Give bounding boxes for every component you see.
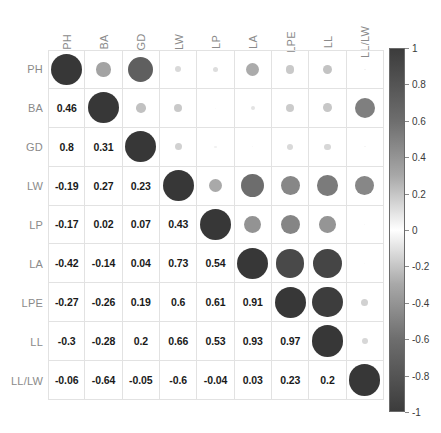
matrix-cell: 0.31 xyxy=(85,128,122,167)
column-header-la: LA xyxy=(235,2,272,48)
correlation-dot xyxy=(200,209,231,240)
correlation-value: 0.23 xyxy=(131,180,151,192)
correlation-dot xyxy=(364,69,366,71)
row-header-column: PHBAGDLWLPLALPELLLL/LW xyxy=(0,50,48,400)
matrix-cell: -0.19 xyxy=(48,167,85,206)
matrix-cell xyxy=(235,89,272,128)
correlation-dot xyxy=(96,62,110,76)
matrix-cell: 0.66 xyxy=(160,322,197,361)
matrix-cell xyxy=(235,50,272,89)
column-header-ph: PH xyxy=(48,2,85,48)
colorbar-gradient xyxy=(389,48,405,412)
column-header-ll-lw: LL/LW xyxy=(347,2,384,48)
matrix-cell xyxy=(347,50,384,89)
matrix-cell xyxy=(309,206,346,245)
correlation-value: 0.53 xyxy=(205,335,225,347)
correlation-value: 0.23 xyxy=(280,374,300,386)
correlation-dot xyxy=(313,249,342,278)
matrix-cell: 0.03 xyxy=(235,361,272,400)
correlation-dot xyxy=(275,287,306,318)
correlation-dot xyxy=(209,179,222,192)
colorbar-tick-label: 0.2 xyxy=(412,188,426,199)
column-header-label: LL xyxy=(322,36,334,49)
matrix-cell xyxy=(272,128,309,167)
matrix-cell xyxy=(160,167,197,206)
correlation-value: -0.28 xyxy=(92,335,115,347)
correlation-dot xyxy=(361,299,368,306)
row-header-ph: PH xyxy=(0,50,43,89)
colorbar-tick-mark xyxy=(405,339,409,340)
colorbar-tick-mark xyxy=(405,266,409,267)
matrix-cell xyxy=(197,89,234,128)
matrix-cell xyxy=(123,89,160,128)
correlation-dot xyxy=(174,104,182,112)
correlation-dot xyxy=(286,65,294,73)
correlation-dot xyxy=(51,54,82,85)
colorbar-tick-label: -0.8 xyxy=(412,370,429,381)
correlation-value: 0.19 xyxy=(131,296,151,308)
matrix-cell xyxy=(272,50,309,89)
correlation-dot xyxy=(349,364,380,395)
colorbar-tick-mark xyxy=(405,230,409,231)
correlation-dot xyxy=(319,216,336,233)
matrix-cell: -0.64 xyxy=(85,361,122,400)
correlation-value: 0.07 xyxy=(131,218,151,230)
column-header-label: LW xyxy=(173,34,185,50)
matrix-cell: -0.17 xyxy=(48,206,85,245)
matrix-cell: 0.8 xyxy=(48,128,85,167)
matrix-cell xyxy=(347,89,384,128)
correlation-dot xyxy=(128,57,153,82)
correlation-value: 0.31 xyxy=(93,141,113,153)
colorbar-tick-mark xyxy=(405,48,409,49)
column-header-label: PH xyxy=(61,34,73,50)
correlation-value: -0.27 xyxy=(55,296,78,308)
matrix-cell: 0.6 xyxy=(160,283,197,322)
matrix-cell xyxy=(309,128,346,167)
matrix-cell: 0.23 xyxy=(123,167,160,206)
correlation-dot xyxy=(317,175,338,196)
matrix-cell xyxy=(309,89,346,128)
correlation-dot xyxy=(175,66,181,72)
colorbar-tick-mark xyxy=(405,303,409,304)
matrix-cell xyxy=(197,167,234,206)
matrix-cell: 0.04 xyxy=(123,244,160,283)
correlation-dot xyxy=(355,176,374,195)
matrix-cell xyxy=(309,167,346,206)
matrix-cell: 0.2 xyxy=(309,361,346,400)
matrix-cell: 0.07 xyxy=(123,206,160,245)
matrix-cell: 0.02 xyxy=(85,206,122,245)
correlation-dot xyxy=(323,103,332,112)
matrix-cell: 0.46 xyxy=(48,89,85,128)
matrix-cell xyxy=(85,50,122,89)
column-header-lw: LW xyxy=(160,2,197,48)
colorbar-tick-label: -1 xyxy=(412,407,421,418)
correlation-value: 0.97 xyxy=(280,335,300,347)
matrix-cell: -0.3 xyxy=(48,322,85,361)
matrix-cell xyxy=(347,322,384,361)
correlation-dot xyxy=(312,287,342,317)
correlation-dot xyxy=(281,215,300,234)
column-header-label: LA xyxy=(247,35,259,49)
matrix-cell xyxy=(123,50,160,89)
row-header-ba: BA xyxy=(0,89,43,128)
colorbar-tick-label: 0.4 xyxy=(412,152,426,163)
matrix-cell xyxy=(235,206,272,245)
column-header-row: PHBAGDLWLPLALPELLLL/LW xyxy=(48,0,384,50)
matrix-cell xyxy=(347,361,384,400)
correlation-dot xyxy=(241,174,264,197)
matrix-cell xyxy=(309,50,346,89)
matrix-cell xyxy=(309,244,346,283)
colorbar-tick-labels: 10.80.60.40.20-0.2-0.4-0.6-0.8-1 xyxy=(405,48,441,412)
correlation-dot xyxy=(136,103,146,113)
matrix-cell: 0.54 xyxy=(197,244,234,283)
correlation-value: 0.46 xyxy=(57,102,77,114)
colorbar-tick-label: -0.4 xyxy=(412,297,429,308)
matrix-cell xyxy=(235,128,272,167)
matrix-cell xyxy=(197,50,234,89)
column-header-gd: GD xyxy=(123,2,160,48)
matrix-cell: -0.6 xyxy=(160,361,197,400)
correlation-dot xyxy=(324,144,330,150)
matrix-cell xyxy=(123,128,160,167)
correlation-value: -0.6 xyxy=(169,374,187,386)
correlation-dot xyxy=(362,338,368,344)
